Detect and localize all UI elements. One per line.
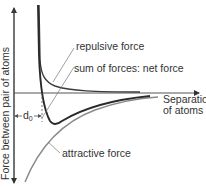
x-axis-label-line2: of atoms [163, 104, 203, 116]
repulsive-leader [53, 48, 74, 82]
attractive-force-label: attractive force [62, 147, 131, 159]
attractive-leader [48, 142, 60, 153]
repulsive-force-label: repulsive force [76, 40, 144, 52]
net-force-label: sum of forces: net force [74, 62, 184, 74]
d0-dimension: d0 [15, 109, 41, 122]
y-axis-label: Force between pair of atoms [0, 47, 11, 180]
force-diagram: d0 repulsive force sum of forces: net fo… [0, 0, 206, 188]
d0-label: d0 [23, 109, 33, 122]
